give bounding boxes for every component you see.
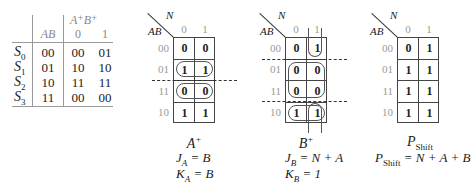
symmetry-dashed-line [152,80,237,81]
next-state-n1: 00 [90,90,120,106]
kmap-cell: 1 [419,81,440,103]
grouping-loop [176,83,213,99]
equation-ja: JA = B [176,150,211,168]
kmap-cell: 1 [398,81,419,103]
row-label-01: 01 [371,63,393,75]
next-state-n0: 10 [63,60,93,76]
col-label-1: 1 [199,23,211,35]
equation-ka: KA = B [176,166,213,184]
table-bottom-rule [12,106,113,107]
next-state-n1: 10 [90,60,120,76]
col-var-label: N [390,9,397,21]
symmetry-dashed-line [262,101,347,102]
row-label-00: 00 [259,42,281,54]
kmap-cell: 0 [174,38,195,60]
next-state-n0: 00 [63,90,93,106]
table-header-rule [12,42,113,43]
kmap-cell: 0 [398,38,419,60]
kmap-cell: 0 [195,38,216,60]
col-header-0: 0 [63,27,93,42]
grouping-loop [176,61,213,77]
next-state-header: A⁺B⁺ [70,13,97,28]
col-header-1: 1 [90,27,120,42]
col-label-0: 0 [178,23,190,35]
symmetry-dashed-line [262,59,347,60]
kmap-caption: B+ [285,134,327,152]
kmap-cell: 1 [398,103,419,125]
state-label: S3 [14,89,26,107]
row-label-10: 10 [147,106,169,118]
wraparound-loop-top [308,28,322,57]
grouping-loop [288,62,325,98]
next-state-n1: 01 [90,45,120,61]
col-var-label: N [278,9,285,21]
kmap-cell: 1 [174,103,195,125]
kmap-cell: 1 [398,60,419,82]
kmap-cell: 1 [419,60,440,82]
wraparound-loop-bottom [308,103,322,133]
present-state: 01 [33,60,63,76]
row-label-01: 01 [147,63,169,75]
kmap-grid: 0 1 1 1 1 1 1 1 [397,37,439,123]
col-var-label: N [166,9,173,21]
equation-jb: JB = N + A [285,150,343,168]
row-label-10: 10 [259,106,281,118]
col-header-ab: AB [33,27,63,42]
row-label-11: 11 [371,85,393,97]
row-label-10: 10 [371,106,393,118]
kmap-cell: 0 [286,38,307,60]
equation-pshift: PShift = N + A + B [375,150,470,168]
present-state: 00 [33,45,63,61]
row-var-label: AB [260,25,273,37]
col-label-1: 1 [423,23,435,35]
next-state-n0: 11 [63,75,93,91]
kmap-cell: 1 [195,103,216,125]
row-label-00: 00 [147,42,169,54]
col-label-0: 0 [290,23,302,35]
row-var-label: AB [148,25,161,37]
equation-kb: KB = 1 [285,166,321,184]
next-state-n0: 00 [63,45,93,61]
row-label-01: 01 [259,63,281,75]
row-label-00: 00 [371,42,393,54]
col-label-0: 0 [402,23,414,35]
present-state: 11 [33,90,63,106]
kmap-cell: 1 [419,103,440,125]
next-state-n1: 11 [90,75,120,91]
row-label-11: 11 [259,85,281,97]
row-label-11: 11 [147,85,169,97]
present-state: 10 [33,75,63,91]
row-var-label: AB [370,25,383,37]
kmap-cell: 1 [419,38,440,60]
kmap-caption: A+ [173,134,215,152]
